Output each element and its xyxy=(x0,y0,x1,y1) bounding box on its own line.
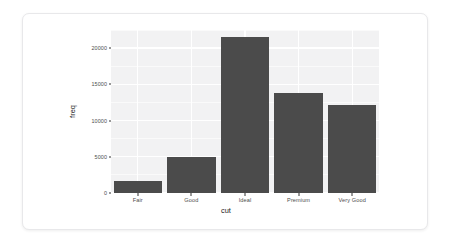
y-axis-title: freq xyxy=(68,81,77,141)
x-tick-mark xyxy=(137,193,138,196)
y-tick-label: 5000 xyxy=(95,154,107,160)
x-tick-mark xyxy=(298,193,299,196)
y-tick-label: 10000 xyxy=(92,118,108,124)
x-tick-label: Very Good xyxy=(339,197,366,203)
x-tick-mark xyxy=(352,193,353,196)
y-tick-label: 0 xyxy=(104,190,107,196)
bar-fair xyxy=(114,181,162,193)
x-tick-label: Fair xyxy=(133,197,143,203)
bar-very-good xyxy=(328,105,376,193)
x-axis-title: cut xyxy=(23,206,429,215)
x-tick-label: Ideal xyxy=(239,197,252,203)
plot-panel xyxy=(111,30,379,193)
bar-premium xyxy=(274,93,322,193)
x-tick-label: Good xyxy=(184,197,198,203)
bar-ideal xyxy=(221,37,269,193)
x-tick-mark xyxy=(191,193,192,196)
bar-chart: freq 05000100001500020000 FairGoodIdealP… xyxy=(23,14,429,231)
screenshot-root: freq 05000100001500020000 FairGoodIdealP… xyxy=(0,0,451,246)
bar-good xyxy=(167,157,215,193)
y-tick-label: 15000 xyxy=(92,81,108,87)
x-tick-label: Premium xyxy=(287,197,310,203)
x-tick-mark xyxy=(245,193,246,196)
chart-card: freq 05000100001500020000 FairGoodIdealP… xyxy=(22,13,428,230)
y-tick-label: 20000 xyxy=(92,45,108,51)
gridline-major-vertical xyxy=(137,30,138,193)
